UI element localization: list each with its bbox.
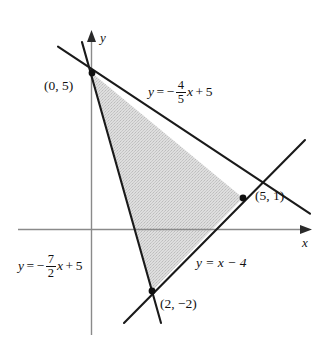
eq-left-plus: + — [63, 259, 76, 273]
eq-left-fraction: 7 2 — [46, 253, 56, 279]
equation-label-left: y = − 7 2 x + 5 — [18, 253, 82, 279]
point-label-2-neg2: (2, −2) — [160, 297, 197, 311]
eq-top-equals: = — [154, 85, 167, 99]
math-graph-figure: y x (0, 5) (5, 1) (2, −2) y = − 4 5 x + … — [0, 0, 324, 345]
vertex-dot-2-neg2 — [149, 288, 156, 295]
vertex-dot-0-5 — [89, 70, 96, 77]
coordinate-plane-svg — [0, 0, 324, 345]
point-label-5-1: (5, 1) — [255, 189, 284, 203]
eq-top-plus: + — [193, 85, 206, 99]
eq-top-fraction: 4 5 — [176, 79, 186, 105]
eq-top-denominator: 5 — [176, 92, 186, 106]
point-label-0-5: (0, 5) — [44, 79, 73, 93]
equation-label-top: y = − 4 5 x + 5 — [148, 79, 212, 105]
eq-left-minus: − — [37, 259, 45, 273]
eq-left-denominator: 2 — [46, 266, 56, 280]
eq-top-minus: − — [167, 85, 175, 99]
eq-left-equals: = — [24, 259, 37, 273]
y-axis-label: y — [100, 31, 106, 44]
eq-left-constant: 5 — [76, 259, 83, 273]
eq-top-constant: 5 — [206, 85, 213, 99]
vertex-dot-5-1 — [240, 195, 247, 202]
equation-label-right: y = x − 4 — [196, 256, 246, 270]
eq-left-numerator: 7 — [46, 253, 56, 266]
x-axis-label: x — [302, 236, 308, 249]
eq-top-numerator: 4 — [176, 79, 186, 92]
